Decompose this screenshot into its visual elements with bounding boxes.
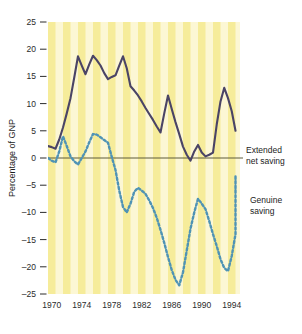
- y-tick-label: –25: [22, 289, 36, 299]
- x-tick-label: 1974: [72, 300, 91, 310]
- y-tick-label: 15: [27, 71, 37, 81]
- legend-extended-line2: net saving: [246, 156, 285, 166]
- y-axis-ticks: 2520151050–5–10–15–20–25: [22, 17, 47, 299]
- x-tick-label: 1990: [192, 300, 211, 310]
- legend-extended-line1: Extended: [246, 145, 282, 155]
- cropped-title-text: [0, 0, 302, 11]
- x-tick-label: 1982: [132, 300, 151, 310]
- chart-figure: 2520151050–5–10–15–20–25 Percentage of G…: [0, 0, 302, 334]
- y-tick-label: 0: [31, 153, 36, 163]
- legend-genuine-saving: Genuine saving: [250, 195, 282, 216]
- y-tick-label: 20: [27, 44, 37, 54]
- y-tick-label: –20: [22, 262, 36, 272]
- x-tick-label: 1970: [42, 300, 61, 310]
- y-tick-label: 10: [27, 99, 37, 109]
- legend-genuine-line2: saving: [250, 206, 275, 216]
- legend-extended-net-saving: Extended net saving: [246, 145, 285, 166]
- x-tick-label: 1978: [102, 300, 121, 310]
- line-chart-svg: 2520151050–5–10–15–20–25 Percentage of G…: [0, 0, 302, 334]
- legend-genuine-line1: Genuine: [250, 195, 282, 205]
- y-tick-label: –15: [22, 235, 36, 245]
- y-tick-label: –10: [22, 207, 36, 217]
- x-axis-ticks: 1970197419781982198619901994: [42, 300, 241, 310]
- y-tick-label: –5: [27, 180, 37, 190]
- x-tick-label: 1994: [222, 300, 241, 310]
- y-tick-label: 25: [27, 17, 37, 27]
- x-tick-label: 1986: [162, 300, 181, 310]
- y-tick-label: 5: [31, 126, 36, 136]
- y-axis-title: Percentage of GNP: [7, 119, 17, 197]
